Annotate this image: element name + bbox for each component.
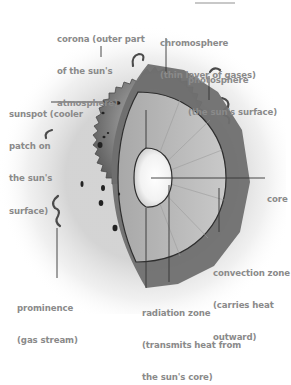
label-core: core bbox=[267, 172, 288, 215]
label-sunspot: sunspot (cooler patch on the sun's surfa… bbox=[9, 87, 83, 227]
label-photosphere: photosphere (the sun's surface) bbox=[188, 53, 277, 129]
label-radiation-zone: radiation zone (transmits heat from the … bbox=[142, 286, 241, 385]
label-prominence: prominence (gas stream) bbox=[17, 281, 78, 357]
